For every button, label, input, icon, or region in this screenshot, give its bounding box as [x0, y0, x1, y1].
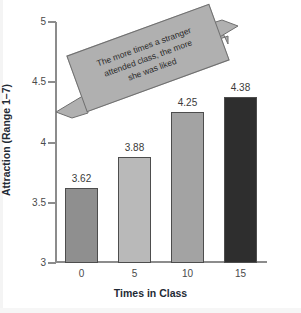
bar [65, 188, 98, 263]
bar-value-label: 3.62 [60, 173, 104, 184]
plot-area [55, 22, 267, 263]
x-tick-label: 15 [221, 268, 261, 279]
x-tick-label: 10 [168, 268, 208, 279]
y-tick-label: 3 [2, 257, 46, 268]
bar-chart-figure: 33.544.55 Attraction (Range 1–7) 3.6203.… [0, 0, 301, 313]
bar [171, 112, 204, 263]
x-axis-title: Times in Class [0, 287, 301, 299]
bar-value-label: 4.25 [166, 97, 210, 108]
scan-edge-bottom [0, 308, 301, 313]
bar [224, 97, 257, 263]
y-axis-title: Attraction (Range 1–7) [0, 84, 12, 196]
bar-value-label: 3.88 [113, 142, 157, 153]
x-tick-label: 0 [62, 268, 102, 279]
bar-value-label: 4.38 [219, 82, 263, 93]
y-tick-label: 5 [2, 16, 46, 27]
y-axis-title-wrap: Attraction (Range 1–7) [0, 60, 14, 220]
bar [118, 157, 151, 263]
x-tick-label: 5 [115, 268, 155, 279]
